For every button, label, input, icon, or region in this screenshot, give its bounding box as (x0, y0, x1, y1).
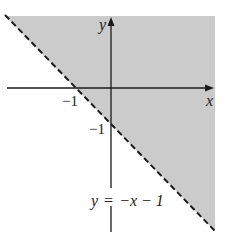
y-axis-label: y (97, 16, 107, 34)
equation-equals: = (104, 192, 113, 209)
equation-rhs: −x − 1 (119, 192, 164, 209)
x-intercept-label: −1 (62, 93, 78, 109)
boundary-equation-label: y = −x − 1 (89, 192, 164, 210)
x-axis-label: x (205, 92, 213, 109)
y-intercept-label: −1 (89, 121, 105, 137)
equation-y: y (89, 192, 99, 210)
inequality-graph: y x −1 −1 y = −x − 1 (0, 0, 226, 245)
